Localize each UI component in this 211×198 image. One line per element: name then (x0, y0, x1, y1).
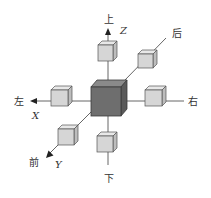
label-right: 右 (188, 95, 198, 107)
center-cube (91, 80, 127, 116)
back-cube (138, 50, 157, 68)
z-arrow-icon (105, 28, 111, 35)
right-cube (145, 86, 166, 106)
axis-label-y: Y (55, 159, 63, 170)
top-cube (98, 41, 117, 61)
label-left: 左 (14, 95, 24, 107)
label-down: 下 (104, 173, 114, 184)
axis-label-x: X (31, 110, 40, 121)
y-arrow-icon (46, 151, 54, 159)
label-front: 前 (29, 156, 39, 168)
label-up: 上 (104, 14, 114, 25)
axis-label-z: Z (119, 25, 128, 36)
bottom-cube (97, 132, 117, 152)
coordinate-diagram: 上 后 左 右 前 下 Z X Y (0, 0, 211, 198)
label-back: 后 (172, 28, 182, 39)
front-cube (58, 125, 78, 145)
x-arrow-icon (30, 98, 37, 104)
left-cube (51, 86, 72, 106)
